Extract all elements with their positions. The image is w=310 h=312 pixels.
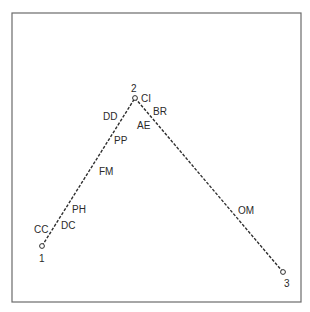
point-label-br: BR [153,106,167,117]
node-2-label: 2 [131,83,137,94]
point-label-dc: DC [61,220,75,231]
dashed-path-segments [42,98,283,272]
node-3-label: 3 [284,278,290,289]
node-3-circle-icon [281,270,286,275]
plot-frame [12,13,301,302]
segment-2-3 [135,98,283,272]
point-label-om: OM [238,205,254,216]
point-label-pp: PP [114,135,128,146]
diagram-canvas: 123 CCDCPHFMPPDDCIBRAEOM [0,0,310,312]
node-1-circle-icon [40,244,45,249]
point-label-ph: PH [72,204,86,215]
point-label-ae: AE [137,120,151,131]
point-label-dd: DD [103,111,117,122]
point-label-ci: CI [141,93,151,104]
node-1-label: 1 [39,253,45,264]
ordination-diagram: 123 CCDCPHFMPPDDCIBRAEOM [0,0,310,312]
point-label-fm: FM [99,166,113,177]
point-labels: CCDCPHFMPPDDCIBRAEOM [34,93,254,235]
node-2-circle-icon [133,96,138,101]
segment-1-2 [42,98,135,246]
point-label-cc: CC [34,224,48,235]
